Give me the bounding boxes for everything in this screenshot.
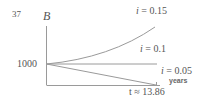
diagram-plot [0, 0, 208, 104]
curve-i-0.15 [47, 27, 156, 64]
curve-i-0.05 [47, 64, 157, 85]
var-i: i [161, 65, 164, 76]
curve-value: 0.15 [149, 5, 167, 16]
curve-label-i-0.15: i = 0.15 [136, 6, 167, 16]
x-axis-unit-label: years [169, 77, 187, 84]
t-annotation: t ≈ 13.86 [129, 87, 165, 97]
curve-label-i-0.1: i = 0.1 [140, 44, 166, 54]
curve-label-i-0.05: i = 0.05 [161, 66, 192, 76]
curve-value: 0.1 [153, 43, 166, 54]
var-i: i [136, 5, 139, 16]
curve-value: 0.05 [174, 65, 192, 76]
var-i: i [140, 43, 143, 54]
